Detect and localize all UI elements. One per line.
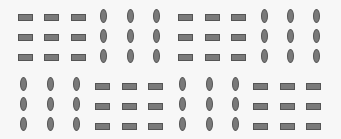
horizontal-rectangle-bottom-right-b xyxy=(280,123,295,130)
horizontal-rectangle-top-left-a xyxy=(71,14,86,21)
horizontal-rectangle-bottom-left-b xyxy=(122,103,137,110)
vertical-oval-bottom-right-a xyxy=(232,117,239,131)
vertical-oval-top-right-b xyxy=(261,29,268,43)
vertical-oval-bottom-right-a xyxy=(232,97,239,111)
vertical-oval-bottom-left-a xyxy=(47,117,54,131)
vertical-oval-top-right-b xyxy=(313,49,320,63)
horizontal-rectangle-bottom-right-b xyxy=(280,103,295,110)
horizontal-rectangle-top-right-a xyxy=(178,54,193,61)
horizontal-rectangle-top-left-a xyxy=(44,34,59,41)
horizontal-rectangle-top-right-a xyxy=(205,14,220,21)
horizontal-rectangle-bottom-left-b xyxy=(148,83,163,90)
horizontal-rectangle-top-left-a xyxy=(44,14,59,21)
vertical-oval-bottom-right-a xyxy=(206,117,213,131)
vertical-oval-top-left-b xyxy=(153,9,160,23)
horizontal-rectangle-top-left-a xyxy=(18,14,33,21)
horizontal-rectangle-bottom-right-b xyxy=(253,103,268,110)
horizontal-rectangle-top-left-a xyxy=(71,54,86,61)
vertical-oval-top-left-b xyxy=(100,9,107,23)
vertical-oval-top-left-b xyxy=(100,29,107,43)
vertical-oval-top-left-b xyxy=(127,9,134,23)
vertical-oval-bottom-left-a xyxy=(20,97,27,111)
vertical-oval-top-right-b xyxy=(287,49,294,63)
horizontal-rectangle-bottom-right-b xyxy=(253,123,268,130)
horizontal-rectangle-bottom-left-b xyxy=(148,123,163,130)
horizontal-rectangle-bottom-right-b xyxy=(253,83,268,90)
horizontal-rectangle-bottom-left-b xyxy=(95,123,110,130)
vertical-oval-top-right-b xyxy=(313,29,320,43)
vertical-oval-top-left-b xyxy=(153,29,160,43)
horizontal-rectangle-top-right-a xyxy=(178,14,193,21)
vertical-oval-bottom-right-a xyxy=(206,97,213,111)
vertical-oval-top-left-b xyxy=(100,49,107,63)
vertical-oval-top-right-b xyxy=(261,49,268,63)
vertical-oval-bottom-right-a xyxy=(232,77,239,91)
horizontal-rectangle-bottom-left-b xyxy=(148,103,163,110)
horizontal-rectangle-bottom-right-b xyxy=(306,103,321,110)
horizontal-rectangle-bottom-right-b xyxy=(280,83,295,90)
horizontal-rectangle-bottom-left-b xyxy=(122,123,137,130)
horizontal-rectangle-top-right-a xyxy=(231,14,246,21)
vertical-oval-top-right-b xyxy=(287,9,294,23)
vertical-oval-top-left-b xyxy=(127,29,134,43)
vertical-oval-bottom-left-a xyxy=(73,117,80,131)
vertical-oval-bottom-left-a xyxy=(73,97,80,111)
horizontal-rectangle-top-left-a xyxy=(44,54,59,61)
vertical-oval-top-right-b xyxy=(261,9,268,23)
horizontal-rectangle-top-left-a xyxy=(18,54,33,61)
vertical-oval-bottom-left-a xyxy=(20,77,27,91)
vertical-oval-top-left-b xyxy=(153,49,160,63)
vertical-oval-top-right-b xyxy=(313,9,320,23)
horizontal-rectangle-top-left-a xyxy=(18,34,33,41)
horizontal-rectangle-top-right-a xyxy=(205,54,220,61)
horizontal-rectangle-top-right-a xyxy=(231,54,246,61)
vertical-oval-bottom-right-a xyxy=(206,77,213,91)
horizontal-rectangle-top-right-a xyxy=(178,34,193,41)
horizontal-rectangle-bottom-left-b xyxy=(95,83,110,90)
horizontal-rectangle-bottom-right-b xyxy=(306,123,321,130)
vertical-oval-top-right-b xyxy=(287,29,294,43)
horizontal-rectangle-bottom-left-b xyxy=(95,103,110,110)
horizontal-rectangle-top-right-a xyxy=(231,34,246,41)
vertical-oval-bottom-left-a xyxy=(20,117,27,131)
vertical-oval-bottom-left-a xyxy=(73,77,80,91)
horizontal-rectangle-top-left-a xyxy=(71,34,86,41)
vertical-oval-bottom-right-a xyxy=(179,97,186,111)
vertical-oval-top-left-b xyxy=(127,49,134,63)
horizontal-rectangle-bottom-right-b xyxy=(306,83,321,90)
vertical-oval-bottom-left-a xyxy=(47,97,54,111)
horizontal-rectangle-bottom-left-b xyxy=(122,83,137,90)
horizontal-rectangle-top-right-a xyxy=(205,34,220,41)
vertical-oval-bottom-right-a xyxy=(179,77,186,91)
vertical-oval-bottom-right-a xyxy=(179,117,186,131)
vertical-oval-bottom-left-a xyxy=(47,77,54,91)
